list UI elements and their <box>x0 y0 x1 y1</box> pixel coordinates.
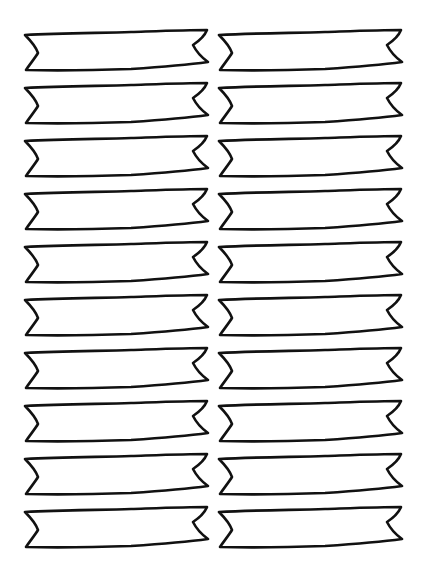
banner-r1-c1 <box>21 27 211 75</box>
banner-r8-c1 <box>21 398 211 446</box>
ribbon-banner-icon <box>21 398 211 446</box>
ribbon-banner-icon <box>21 345 211 393</box>
banner-r6-c1 <box>21 292 211 340</box>
ribbon-banner-icon <box>215 80 405 128</box>
ribbon-banner-icon <box>215 186 405 234</box>
ribbon-banner-icon <box>21 133 211 181</box>
banner-r7-c1 <box>21 345 211 393</box>
ribbon-banner-icon <box>215 239 405 287</box>
banner-r1-c2 <box>215 27 405 75</box>
ribbon-banner-icon <box>21 80 211 128</box>
ribbon-banner-icon <box>215 133 405 181</box>
banner-r4-c1 <box>21 186 211 234</box>
banner-r4-c2 <box>215 186 405 234</box>
ribbon-banner-icon <box>21 239 211 287</box>
banner-r2-c1 <box>21 80 211 128</box>
banner-r10-c2 <box>215 504 405 552</box>
banner-r9-c2 <box>215 451 405 499</box>
banner-r9-c1 <box>21 451 211 499</box>
ribbon-banner-icon <box>21 27 211 75</box>
banner-sheet <box>0 0 428 579</box>
banner-r8-c2 <box>215 398 405 446</box>
banner-r3-c2 <box>215 133 405 181</box>
banner-r7-c2 <box>215 345 405 393</box>
banner-r5-c1 <box>21 239 211 287</box>
ribbon-banner-icon <box>21 451 211 499</box>
ribbon-banner-icon <box>215 27 405 75</box>
ribbon-banner-icon <box>215 345 405 393</box>
banner-r10-c1 <box>21 504 211 552</box>
banner-r5-c2 <box>215 239 405 287</box>
banner-r2-c2 <box>215 80 405 128</box>
ribbon-banner-icon <box>215 398 405 446</box>
ribbon-banner-icon <box>215 504 405 552</box>
ribbon-banner-icon <box>21 292 211 340</box>
ribbon-banner-icon <box>215 451 405 499</box>
ribbon-banner-icon <box>21 504 211 552</box>
ribbon-banner-icon <box>21 186 211 234</box>
banner-r3-c1 <box>21 133 211 181</box>
ribbon-banner-icon <box>215 292 405 340</box>
banner-r6-c2 <box>215 292 405 340</box>
